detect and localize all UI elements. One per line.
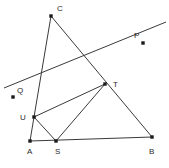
segment-s-t xyxy=(56,84,105,141)
vertex-dot-q xyxy=(11,95,14,98)
vertex-label-p: P xyxy=(134,32,139,40)
vertex-label-s: S xyxy=(55,148,60,156)
vertex-label-c: C xyxy=(57,5,63,13)
vertex-label-b: B xyxy=(149,148,154,156)
vertex-label-q: Q xyxy=(17,87,23,95)
vertex-dot-a xyxy=(28,139,31,142)
segment-u-a xyxy=(30,117,34,141)
segment-c-u xyxy=(34,16,51,117)
segment-u-s xyxy=(34,117,56,141)
vertex-label-t: T xyxy=(113,81,118,89)
geometry-figure: CPTQUASB xyxy=(0,0,169,168)
vertex-dot-s xyxy=(54,139,57,142)
vertex-dot-c xyxy=(49,14,52,17)
segment-a-b xyxy=(30,137,152,141)
vertex-dot-p xyxy=(141,41,144,44)
segment-u-t xyxy=(34,84,105,117)
vertex-dot-t xyxy=(103,82,106,85)
line-q-u-t-p xyxy=(4,22,166,88)
vertex-dot-u xyxy=(32,115,35,118)
vertex-dot-b xyxy=(150,135,153,138)
vertex-label-a: A xyxy=(27,148,32,156)
segments-group xyxy=(4,16,166,141)
geometry-canvas xyxy=(0,0,169,168)
vertex-label-u: U xyxy=(20,114,26,122)
